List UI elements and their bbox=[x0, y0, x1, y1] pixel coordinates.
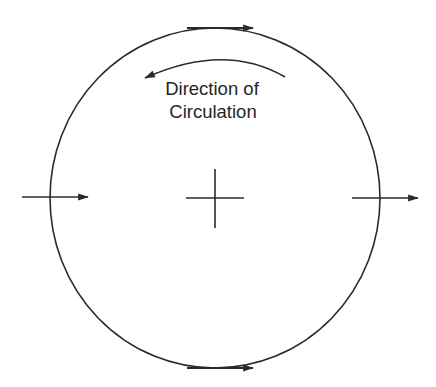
center-cross-icon bbox=[186, 169, 244, 228]
circulation-diagram: Direction of Circulation bbox=[0, 0, 436, 387]
direction-label-line2: Circulation bbox=[169, 101, 256, 122]
circulation-curved-arrow-icon bbox=[145, 60, 285, 78]
direction-label-line1: Direction of bbox=[165, 78, 259, 99]
